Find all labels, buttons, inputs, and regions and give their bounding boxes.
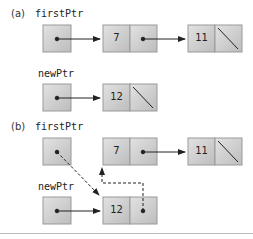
bottom-rule <box>0 233 253 234</box>
first-ptr-label: firstPtr <box>35 8 83 19</box>
node-value: 7 <box>103 145 130 156</box>
part-b-label: (b) <box>11 121 25 132</box>
node-value: 11 <box>188 145 215 156</box>
new-ptr-label: newPtr <box>38 181 74 192</box>
node-value: 7 <box>103 32 130 43</box>
new-node-value: 12 <box>103 91 130 102</box>
first-ptr-label: firstPtr <box>35 121 83 132</box>
node-value: 11 <box>188 32 215 43</box>
part-a-label: (a) <box>11 8 25 19</box>
new-node-value: 12 <box>103 204 130 215</box>
new-ptr-label: newPtr <box>38 68 74 79</box>
